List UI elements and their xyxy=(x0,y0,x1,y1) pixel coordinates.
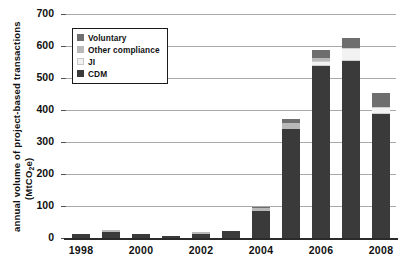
y-axis-label-500: 500 xyxy=(14,71,54,83)
y-axis-label-400: 400 xyxy=(14,103,54,115)
bar-segment-cdm-1999 xyxy=(102,232,119,238)
bar-segment-cdm-2003 xyxy=(222,231,239,238)
bar-segment-cdm-1998 xyxy=(72,234,89,238)
bar-segment-cdm-2007 xyxy=(342,61,359,238)
bar-segment-vol-2006 xyxy=(312,50,329,58)
y-axis-label-200: 200 xyxy=(14,167,54,179)
bar-2007[interactable] xyxy=(342,38,359,238)
x-axis-labels: 199820002002200420062008 xyxy=(66,244,396,264)
bar-segment-vol-2008 xyxy=(372,93,389,107)
legend-item-ji[interactable]: JI xyxy=(77,56,163,67)
x-axis-label-1998: 1998 xyxy=(69,244,94,256)
legend-item-other-compliance[interactable]: Other compliance xyxy=(77,44,163,55)
bar-segment-cdm-2001 xyxy=(162,236,179,238)
legend-label-ji: JI xyxy=(88,57,95,67)
bar-segment-cdm-2008 xyxy=(372,114,389,238)
x-axis-label-2002: 2002 xyxy=(189,244,214,256)
y-axis-label-600: 600 xyxy=(14,39,54,51)
x-axis-label-2006: 2006 xyxy=(309,244,334,256)
bar-segment-cdm-2006 xyxy=(312,66,329,238)
bar-segment-ji-2007 xyxy=(342,48,359,61)
x-axis-label-2000: 2000 xyxy=(129,244,154,256)
legend-swatch-ji xyxy=(77,58,84,65)
bar-2005[interactable] xyxy=(282,119,299,238)
bar-1998[interactable] xyxy=(72,234,89,238)
bar-2000[interactable] xyxy=(132,234,149,238)
y-axis-label-0: 0 xyxy=(14,231,54,243)
bar-2006[interactable] xyxy=(312,50,329,238)
bar-segment-vol-2007 xyxy=(342,38,359,49)
legend-swatch-voluntary xyxy=(77,34,84,41)
bar-2001[interactable] xyxy=(162,236,179,238)
legend-swatch-cdm xyxy=(77,70,84,77)
bar-segment-cdm-2005 xyxy=(282,129,299,238)
bar-2002[interactable] xyxy=(192,232,209,238)
legend-item-cdm[interactable]: CDM xyxy=(77,68,163,79)
bar-chart: annual volume of project-based transacti… xyxy=(0,0,402,273)
legend-swatch-other-compliance xyxy=(77,46,84,53)
x-axis-line xyxy=(64,238,398,240)
legend-item-voluntary[interactable]: Voluntary xyxy=(77,32,163,43)
chart-legend: VoluntaryOther complianceJICDM xyxy=(72,28,168,84)
legend-label-other-compliance: Other compliance xyxy=(88,45,160,55)
x-axis-label-2008: 2008 xyxy=(369,244,394,256)
bar-1999[interactable] xyxy=(102,230,119,238)
bar-2008[interactable] xyxy=(372,93,389,238)
bar-segment-cdm-2004 xyxy=(252,211,269,238)
bar-2004[interactable] xyxy=(252,207,269,238)
y-axis-label-100: 100 xyxy=(14,199,54,211)
y-axis-title-unit-post: e) xyxy=(23,158,34,167)
legend-label-cdm: CDM xyxy=(88,69,107,79)
y-axis-label-300: 300 xyxy=(14,135,54,147)
bar-2003[interactable] xyxy=(222,231,239,238)
legend-label-voluntary: Voluntary xyxy=(88,33,127,43)
bar-segment-cdm-2000 xyxy=(132,234,149,238)
bar-segment-cdm-2002 xyxy=(192,234,209,238)
y-axis-label-700: 700 xyxy=(14,7,54,19)
x-axis-label-2004: 2004 xyxy=(249,244,274,256)
